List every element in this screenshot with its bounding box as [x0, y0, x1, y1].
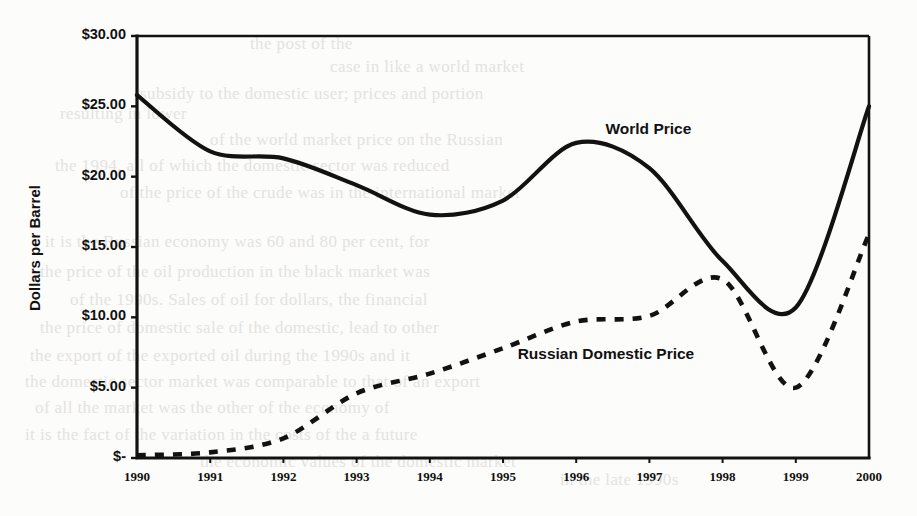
y-axis-title: Dollars per Barrel	[26, 185, 43, 311]
y-tick-label: $30.00	[82, 26, 126, 42]
x-tick-label: 1996	[546, 469, 606, 485]
axis-lines	[137, 36, 869, 458]
chart-plot-area	[0, 0, 917, 516]
y-tick-label: $15.00	[82, 237, 126, 253]
x-tick-label: 1998	[693, 469, 753, 485]
y-tick-label: $-	[113, 448, 126, 464]
russian-domestic-price-line	[137, 234, 869, 455]
x-tick-label: 1990	[107, 469, 167, 485]
x-tick-label: 1992	[253, 469, 313, 485]
x-tick-label: 2000	[839, 469, 899, 485]
x-tick-label: 1994	[400, 469, 460, 485]
y-tick-label: $25.00	[82, 96, 126, 112]
world-price-line	[137, 95, 869, 314]
series-label-russian-domestic-price: Russian Domestic Price	[518, 345, 695, 363]
x-tick-label: 1999	[766, 469, 826, 485]
y-tick-label: $5.00	[90, 378, 126, 394]
x-tick-label: 1991	[180, 469, 240, 485]
oil-price-chart-figure: the post of thecase in like a world mark…	[0, 0, 917, 516]
series-label-world-price: World Price	[605, 120, 691, 138]
axis-frame-path	[137, 36, 869, 458]
x-tick-label: 1995	[473, 469, 533, 485]
x-tick-label: 1997	[619, 469, 679, 485]
y-tick-label: $10.00	[82, 307, 126, 323]
y-tick-label: $20.00	[82, 167, 126, 183]
x-tick-label: 1993	[327, 469, 387, 485]
